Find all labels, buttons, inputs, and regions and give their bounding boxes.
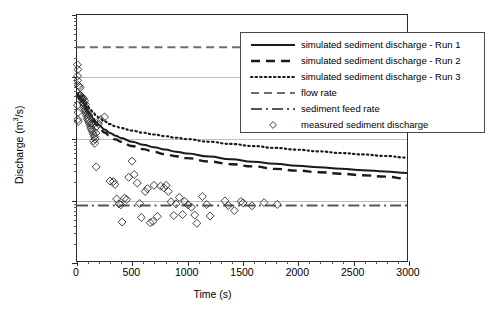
scatter-marker xyxy=(230,207,238,215)
scatter-marker xyxy=(221,197,229,205)
legend-label: simulated sediment discharge - Run 1 xyxy=(301,38,460,52)
x-tick-minor xyxy=(309,261,310,264)
scatter-marker xyxy=(125,173,133,181)
x-tick-minor xyxy=(177,261,178,264)
legend-key-dotted-icon xyxy=(245,70,301,84)
x-tick-minor xyxy=(121,261,122,264)
x-tick-label: 1000 xyxy=(175,266,198,278)
plot-area: simulated sediment discharge - Run 1simu… xyxy=(76,14,408,262)
y-axis-title-tail: /s) xyxy=(13,106,25,118)
x-tick-label: 500 xyxy=(123,266,141,278)
scatter-marker xyxy=(170,211,178,219)
scatter-marker xyxy=(92,163,100,171)
scatter-marker xyxy=(137,214,145,222)
scatter-marker xyxy=(179,211,187,219)
legend-label: simulated sediment discharge - Run 3 xyxy=(301,70,460,84)
y-axis-title-superscript: 3 xyxy=(11,117,20,121)
x-tick-minor xyxy=(88,261,89,264)
x-tick-label: 1500 xyxy=(230,266,253,278)
y-axis-title-text: Discharge (m xyxy=(13,121,25,183)
x-tick-minor xyxy=(110,261,111,264)
x-tick-label: 0 xyxy=(73,266,79,278)
scatter-marker xyxy=(198,193,206,201)
x-tick-minor xyxy=(343,261,344,264)
scatter-marker xyxy=(118,218,126,226)
x-tick-minor xyxy=(99,261,100,264)
x-tick-minor xyxy=(376,261,377,264)
legend: simulated sediment discharge - Run 1simu… xyxy=(240,32,485,133)
x-tick-minor xyxy=(265,261,266,264)
x-tick-minor xyxy=(210,261,211,264)
scatter-marker xyxy=(128,157,136,165)
x-axis-title: Time (s) xyxy=(0,288,425,300)
x-tick-minor xyxy=(254,261,255,264)
x-tick-minor xyxy=(199,261,200,264)
legend-item: simulated sediment discharge - Run 2 xyxy=(241,53,484,69)
x-tick-minor xyxy=(365,261,366,264)
legend-key-dashed-light-icon xyxy=(245,86,301,100)
x-tick-minor xyxy=(221,261,222,264)
legend-label: sediment feed rate xyxy=(301,102,380,116)
x-tick-minor xyxy=(287,261,288,264)
legend-item: flow rate xyxy=(241,85,484,101)
y-axis-title: Discharge (m3/s) xyxy=(11,75,25,215)
legend-label: flow rate xyxy=(301,86,337,100)
scatter-marker xyxy=(191,211,199,219)
x-tick-minor xyxy=(154,261,155,264)
x-tick-minor xyxy=(143,261,144,264)
x-tick-label: 3000 xyxy=(396,266,419,278)
x-tick-label: 2000 xyxy=(286,266,309,278)
legend-key-diamond-open-icon xyxy=(245,118,301,132)
legend-key-dashed-icon xyxy=(245,54,301,68)
x-tick-minor xyxy=(398,261,399,264)
scatter-marker xyxy=(133,179,141,187)
legend-key-solid-icon xyxy=(245,38,301,52)
legend-item: simulated sediment discharge - Run 1 xyxy=(241,37,484,53)
scatter-marker xyxy=(206,212,214,220)
legend-item: measured sediment discharge xyxy=(241,117,484,133)
scatter-marker xyxy=(193,219,201,227)
x-tick-minor xyxy=(232,261,233,264)
x-tick-minor xyxy=(276,261,277,264)
scatter-marker xyxy=(130,171,138,179)
legend-item: sediment feed rate xyxy=(241,101,484,117)
legend-key-dash-dot-icon xyxy=(245,102,301,116)
legend-label: simulated sediment discharge - Run 2 xyxy=(301,54,460,68)
legend-label: measured sediment discharge xyxy=(301,118,428,132)
x-tick-minor xyxy=(320,261,321,264)
x-tick-label: 2500 xyxy=(341,266,364,278)
x-tick-minor xyxy=(387,261,388,264)
legend-item: simulated sediment discharge - Run 3 xyxy=(241,69,484,85)
x-tick-minor xyxy=(166,261,167,264)
x-tick-minor xyxy=(332,261,333,264)
